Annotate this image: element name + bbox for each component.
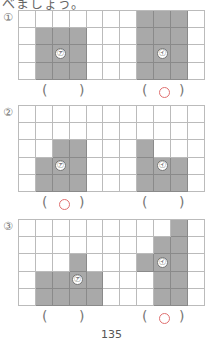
grid-cell: [70, 123, 87, 140]
grid-cell: [53, 123, 70, 140]
grid-cell: [87, 220, 104, 237]
grid-cell: [103, 106, 120, 123]
grid-cell: [87, 28, 104, 45]
grid-cell: [120, 175, 137, 192]
shaded-cell: [137, 254, 154, 271]
grid-cell: [154, 140, 171, 157]
grid-cell: [19, 28, 36, 45]
shaded-cell: [36, 63, 53, 80]
page-number: 135: [0, 328, 223, 341]
grid-cell: [19, 140, 36, 157]
answer-slot[interactable]: [52, 84, 76, 100]
grid-cell: [19, 175, 36, 192]
grid-cell: [70, 220, 87, 237]
shaded-cell: [36, 28, 53, 45]
shape-marker: ㋑: [157, 48, 168, 59]
grid-cell: [87, 63, 104, 80]
grid-cell: [137, 237, 154, 254]
shaded-cell: [137, 28, 154, 45]
grid-cell: [188, 272, 205, 289]
answer-paren-open: (: [142, 194, 147, 210]
shaded-cell: [87, 272, 104, 289]
shaded-cell: [87, 289, 104, 306]
answer-slot[interactable]: [152, 196, 176, 212]
grid-cell: [19, 254, 36, 271]
shaded-cell: [70, 63, 87, 80]
grid-cell: [188, 28, 205, 45]
answer-paren-close: ): [179, 308, 184, 324]
grid-cell: [120, 11, 137, 28]
shaded-cell: [171, 289, 188, 306]
shaded-cell: [36, 289, 53, 306]
grid-cell: [87, 106, 104, 123]
shaded-cell: [70, 158, 87, 175]
grid-2: [18, 105, 205, 192]
grid-cell: [87, 237, 104, 254]
grid-cell: [103, 123, 120, 140]
answer-paren-close: ): [179, 82, 184, 98]
shaded-cell: [53, 175, 70, 192]
answer-paren-close: ): [179, 194, 184, 210]
answer-slot[interactable]: [52, 196, 76, 212]
grid-cell: [87, 140, 104, 157]
shaded-cell: [53, 289, 70, 306]
grid-cell: [70, 106, 87, 123]
shaded-cell: [171, 272, 188, 289]
shaded-cell: [171, 63, 188, 80]
answer-paren-close: ): [79, 308, 84, 324]
grid-cell: [154, 220, 171, 237]
grid-cell: [120, 45, 137, 62]
shaded-cell: [70, 28, 87, 45]
grid-cell: [120, 254, 137, 271]
grid-cell: [36, 220, 53, 237]
grid-cell: [19, 63, 36, 80]
grid-cell: [19, 220, 36, 237]
grid-cell: [188, 45, 205, 62]
answer-slot[interactable]: [152, 84, 176, 100]
answer-slot[interactable]: [52, 310, 76, 326]
grid-cell: [120, 28, 137, 45]
shaded-cell: [36, 158, 53, 175]
shape-marker: ㋑: [157, 160, 168, 171]
grid-1: [18, 10, 205, 80]
grid-cell: [87, 11, 104, 28]
grid-cell: [36, 123, 53, 140]
grid-cell: [103, 254, 120, 271]
grid-cell: [120, 272, 137, 289]
grid-cell: [87, 45, 104, 62]
answer-paren-open: (: [42, 194, 47, 210]
grid-cell: [103, 272, 120, 289]
shaded-cell: [171, 158, 188, 175]
grid-cell: [19, 123, 36, 140]
answer-circle-mark: [59, 199, 70, 210]
shaded-cell: [171, 45, 188, 62]
grid-cell: [154, 106, 171, 123]
grid-cell: [87, 175, 104, 192]
grid-cell: [154, 123, 171, 140]
grid-cell: [188, 11, 205, 28]
grid-cell: [103, 289, 120, 306]
grid-cell: [53, 254, 70, 271]
shaded-cell: [137, 63, 154, 80]
shaded-cell: [36, 45, 53, 62]
grid-cell: [103, 237, 120, 254]
grid-cell: [19, 106, 36, 123]
answer-paren-open: (: [142, 82, 147, 98]
shaded-cell: [154, 289, 171, 306]
grid-cell: [188, 220, 205, 237]
grid-cell: [120, 106, 137, 123]
answer-paren-open: (: [42, 82, 47, 98]
grid-cell: [103, 158, 120, 175]
shaded-cell: [154, 63, 171, 80]
grid-cell: [137, 272, 154, 289]
shaded-cell: [137, 175, 154, 192]
shaded-cell: [154, 175, 171, 192]
shaded-cell: [171, 28, 188, 45]
shaded-cell: [171, 254, 188, 271]
answer-slot[interactable]: [152, 310, 176, 326]
grid-cell: [70, 11, 87, 28]
grid-cell: [137, 289, 154, 306]
grid-cell: [188, 175, 205, 192]
grid-cell: [103, 140, 120, 157]
grid-cell: [120, 123, 137, 140]
